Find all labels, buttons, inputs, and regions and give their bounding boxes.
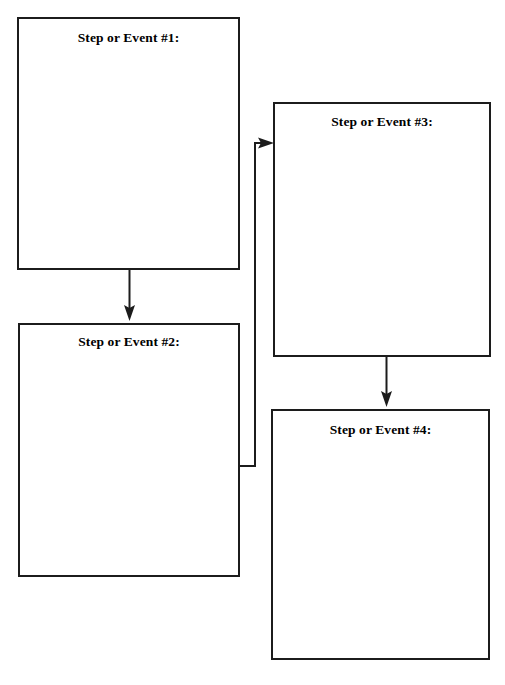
arrow-right-icon-step2-step3 — [240, 138, 274, 467]
step-box-1[interactable]: Step or Event #1: — [17, 17, 240, 270]
arrow-shaft — [240, 143, 263, 466]
arrow-head — [124, 305, 135, 321]
step-box-2[interactable]: Step or Event #2: — [18, 323, 240, 577]
step-box-3[interactable]: Step or Event #3: — [273, 102, 491, 357]
step-box-1-label: Step or Event #1: — [19, 30, 238, 45]
step-box-2-label: Step or Event #2: — [20, 334, 238, 349]
step-box-4[interactable]: Step or Event #4: — [271, 409, 490, 660]
flowchart-canvas: Step or Event #1: Step or Event #2: Step… — [0, 0, 505, 685]
step-box-3-label: Step or Event #3: — [275, 114, 489, 129]
arrow-head — [258, 138, 274, 149]
arrow-down-icon-step1-step2 — [124, 270, 135, 321]
arrow-head — [381, 391, 392, 407]
step-box-4-label: Step or Event #4: — [273, 422, 488, 437]
arrow-down-icon-step3-step4 — [381, 357, 392, 407]
